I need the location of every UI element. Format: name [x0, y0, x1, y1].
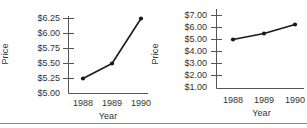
right-ytick-label-5-00: $5.00	[165, 35, 207, 44]
left-x-axis-title: Year	[68, 111, 148, 121]
left-ytick-label-6-25: $6.25	[18, 14, 60, 23]
left-ytick-label-5-50: $5.50	[18, 59, 60, 68]
right-data-point-1988	[231, 37, 235, 41]
left-xtick-label-1990: 1990	[126, 99, 156, 108]
right-xtick-label-1988: 1988	[218, 96, 248, 105]
left-data-point-1989	[110, 61, 114, 65]
right-x-axis-title: Year	[218, 108, 305, 118]
right-xtick-label-1989: 1989	[249, 96, 279, 105]
left-y-axis-title: Price	[0, 39, 10, 69]
right-ytick-label-1-00: $1.00	[165, 83, 207, 92]
right-ytick-label-7-00: $7.00	[165, 11, 207, 20]
left-data-line	[83, 19, 141, 79]
chart-panel-left: Price $6.25 $6.00 $5.75 $5.50 $5.25 $5.0…	[0, 0, 153, 128]
right-ytick-label-6-00: $6.00	[165, 23, 207, 32]
right-data-point-1989	[262, 31, 266, 35]
right-xtick-label-1990: 1990	[280, 96, 307, 105]
right-data-point-1990	[293, 22, 297, 26]
left-data-point-1990	[139, 16, 143, 20]
right-ytick-label-4-00: $4.00	[165, 47, 207, 56]
left-ytick-label-5-75: $5.75	[18, 44, 60, 53]
two-panel-price-line-charts: Price $6.25 $6.00 $5.75 $5.50 $5.25 $5.0…	[0, 0, 307, 128]
left-ytick-label-5-00: $5.00	[18, 89, 60, 98]
left-data-point-1988	[81, 76, 85, 80]
left-ytick-label-6-00: $6.00	[18, 29, 60, 38]
right-y-axis-title: Price	[150, 39, 160, 69]
bottom-divider-rule	[0, 123, 307, 124]
left-xtick-label-1988: 1988	[68, 99, 98, 108]
right-ytick-label-2-00: $2.00	[165, 71, 207, 80]
left-xtick-label-1989: 1989	[97, 99, 127, 108]
chart-panel-right: Price $7.00 $6.00 $5.00 $4.00 $3.00 $2.0…	[153, 0, 307, 128]
right-ytick-label-3-00: $3.00	[165, 59, 207, 68]
left-ytick-label-5-25: $5.25	[18, 74, 60, 83]
